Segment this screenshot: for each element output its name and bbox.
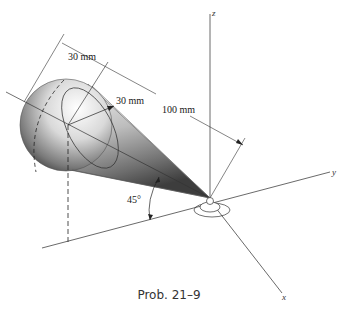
dim-label-cone-length: 100 mm: [162, 104, 195, 115]
y-axis-label: y: [331, 167, 336, 177]
dim-line-cone: [108, 68, 156, 94]
figure-caption: Prob. 21–9: [0, 288, 338, 302]
z-axis-label: z: [211, 8, 216, 18]
dim-label-sphere-radius: 30 mm: [116, 95, 144, 106]
dim-line-cone-2: [190, 116, 243, 145]
support-ball: [207, 198, 214, 205]
extension-line-2: [210, 138, 245, 198]
dim-label-sphere-width: 30 mm: [68, 51, 96, 62]
angle-label: 45°: [127, 194, 141, 205]
dim-arrowhead: [236, 139, 243, 145]
diagram: 30 mm 30 mm 100 mm 45° z y x: [0, 0, 338, 314]
x-axis-line: [212, 203, 282, 293]
